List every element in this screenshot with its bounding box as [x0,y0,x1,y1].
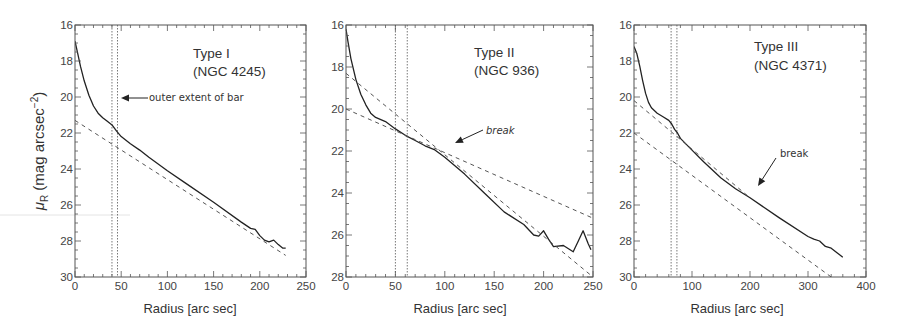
profile-line [634,47,843,258]
x-tick-label: 50 [389,280,402,292]
panel-subtitle: (NGC 936) [474,63,539,78]
annotation-outer-extent-of-bar: outer extent of bar [149,92,245,103]
annotation-break: break [780,148,809,159]
y-tick-label: 16 [331,19,344,31]
axes-frame [75,25,306,277]
y-tick-label: 24 [331,187,344,199]
y-tick-label: 18 [60,55,73,67]
y-tick-label: 16 [619,19,632,31]
fit-line [75,120,286,255]
y-tick-label: 24 [60,163,73,175]
fit-line [346,109,593,218]
y-axis-title: μR (mag arcsec−2) [29,92,50,212]
annotation-arrow [462,130,483,140]
panel-title: Type II [474,45,515,60]
x-tick-label: 200 [740,280,759,292]
y-tick-label: 26 [331,229,344,241]
x-tick-label: 50 [115,280,128,292]
x-tick-label: 100 [158,280,177,292]
x-tick-label: 150 [485,280,504,292]
x-tick-label: 300 [798,280,817,292]
panel-title: Type III [754,39,798,54]
plot-area [346,29,593,277]
x-tick-label: 200 [534,280,553,292]
annotation-arrow [762,158,776,179]
y-axis-title-close: ) [30,92,47,97]
y-tick-label: 18 [619,55,632,67]
profile-line [346,29,591,252]
axes-frame [634,25,866,277]
y-axis-title-sup: −2 [29,96,40,108]
y-tick-label: 22 [619,127,632,139]
y-tick-label: 26 [619,199,632,211]
x-axis-title: Radius [arc sec] [143,301,236,316]
fit-line [346,73,593,277]
y-tick-label: 16 [60,19,73,31]
x-tick-label: 100 [682,280,701,292]
y-tick-label: 24 [619,163,632,175]
axes-frame [346,25,593,277]
y-tick-label: 26 [60,199,73,211]
arrowhead-icon [121,95,129,102]
fit-line [634,101,750,198]
arrowhead-icon [758,177,765,186]
y-tick-label: 20 [331,103,344,115]
x-axis-title: Radius [arc sec] [690,301,783,316]
x-axis-title: Radius [arc sec] [413,301,506,316]
x-tick-label: 250 [296,280,315,292]
x-tick-label: 400 [856,280,875,292]
y-tick-label: 30 [619,271,632,283]
y-axis-title-rest: (mag arcsec [30,108,47,195]
x-tick-label: 250 [583,280,602,292]
y-tick-label: 22 [60,127,73,139]
y-axis-title-sub: R [39,195,50,202]
plot-area [634,47,843,277]
y-tick-label: 18 [331,61,344,73]
y-tick-label: 30 [60,271,73,283]
panel-title: Type I [193,46,230,61]
x-tick-label: 150 [204,280,223,292]
x-tick-label: 200 [250,280,269,292]
y-tick-label: 28 [331,271,344,283]
y-tick-label: 20 [619,91,632,103]
panel-subtitle: (NGC 4371) [754,58,827,73]
y-tick-label: 22 [331,145,344,157]
figure-canvas: μR (mag arcsec−2) Type I (NGC 4245) Radi… [0,0,899,333]
y-tick-label: 20 [60,91,73,103]
annotation-break: break [486,125,516,136]
panel-type-i: Type I (NGC 4245) Radius [arc sec] outer… [60,19,315,316]
y-tick-label: 28 [60,235,73,247]
panel-subtitle: (NGC 4245) [193,64,266,79]
y-tick-label: 28 [619,235,632,247]
y-axis-title-mu: μ [30,202,47,211]
panel-type-ii: Type II (NGC 936) Radius [arc sec] break… [331,19,602,316]
panel-type-iii: Type III (NGC 4371) Radius [arc sec] bre… [619,19,875,316]
x-tick-label: 100 [435,280,454,292]
